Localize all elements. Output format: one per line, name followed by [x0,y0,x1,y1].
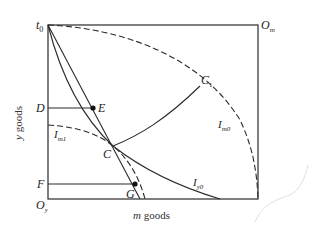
iy0-label: Iy0 [192,176,204,191]
corner-oy-label: Oy [36,198,49,214]
corner-t0-label: t0 [36,18,43,34]
point-d-label: D [35,101,45,115]
y-axis-label: y goods [12,106,24,141]
contract-curve [113,86,200,146]
point-c1-label: C1 [201,73,213,89]
point-e-label: E [97,101,106,115]
edgeworth-box-diagram: t0 Om Oy D E F G C C1 Im1 Im0 Iy0 m good… [0,0,321,230]
im0-label: Im0 [217,118,231,133]
x-axis-label: m goods [133,209,170,221]
point-e-dot [90,105,95,110]
iy0-curve [48,25,220,199]
point-g-dot [132,181,137,186]
scribble-mark [255,165,308,222]
im1-label: Im1 [53,128,66,143]
point-f-label: F [36,177,45,191]
price-line [48,25,140,199]
im0-curve [48,25,258,199]
corner-om-label: Om [261,18,275,34]
box-frame [48,25,258,199]
point-c-label: C [103,147,112,161]
point-g-label: G [126,187,135,201]
